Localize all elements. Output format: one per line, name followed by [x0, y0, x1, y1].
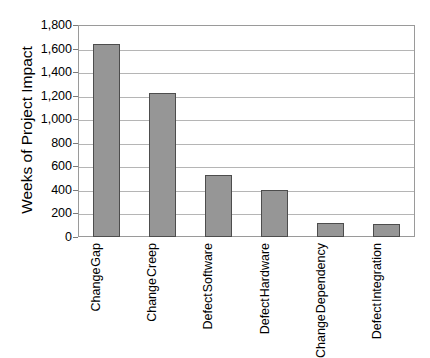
- y-axis-tick-label: 1,800: [8, 18, 72, 32]
- y-axis-tick-label: 600: [8, 159, 72, 173]
- y-axis-title: Weeks of Project Impact: [15, 30, 39, 230]
- x-axis-category-label: ChangeCreep: [145, 243, 179, 353]
- bar: [261, 190, 288, 237]
- x-axis-category-label-line: Gap: [89, 243, 104, 267]
- x-axis-category-label: DefectIntegration: [370, 243, 404, 353]
- x-axis-category-label: ChangeDependency: [314, 243, 348, 353]
- bar: [317, 223, 344, 237]
- y-axis-tick-label: 200: [8, 206, 72, 220]
- x-axis-category-label-line: Defect: [370, 303, 385, 339]
- x-axis-category-label-line: Integration: [370, 243, 385, 302]
- x-axis-category-label-line: Change: [314, 314, 329, 358]
- bars-layer: [78, 25, 415, 237]
- x-axis-category-label: DefectSoftware: [201, 243, 235, 353]
- x-axis-category-label-line: Dependency: [314, 243, 329, 313]
- y-axis-tick-label: 1,600: [8, 42, 72, 56]
- x-axis-category-label-line: Defect: [201, 293, 216, 329]
- x-axis-category-label-line: Creep: [145, 243, 160, 277]
- y-axis-tick-label: 1,200: [8, 89, 72, 103]
- bar: [93, 44, 120, 237]
- x-axis-category-label: DefectHardware: [258, 243, 292, 353]
- bar: [205, 175, 232, 237]
- y-axis-tick-label: 800: [8, 136, 72, 150]
- bar: [373, 224, 400, 237]
- x-axis-category-label-line: Software: [201, 243, 216, 292]
- y-axis-tick-label: 0: [8, 230, 72, 244]
- x-axis-category-label-line: Change: [89, 268, 104, 312]
- x-axis-category-label: ChangeGap: [89, 243, 123, 353]
- x-axis-category-label-line: Hardware: [258, 243, 273, 297]
- x-axis-category-label-line: Defect: [258, 298, 273, 334]
- bar: [149, 93, 176, 237]
- y-axis-tick-label: 1,400: [8, 65, 72, 79]
- y-axis-tick-mark: [73, 237, 78, 238]
- x-axis-category-label-line: Change: [145, 278, 160, 322]
- y-axis-tick-label: 400: [8, 183, 72, 197]
- y-axis-tick-label: 1,000: [8, 112, 72, 126]
